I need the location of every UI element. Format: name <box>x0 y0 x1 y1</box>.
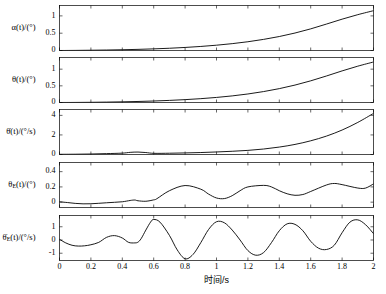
panel-theta-dot: 024θ̇(t)/(°/s) <box>6 110 373 159</box>
panel-theta-dot-frame <box>60 110 374 155</box>
panel-theta-dot-ytick-label-1: 2 <box>52 130 56 139</box>
panel-theta-e-dot-ytick-label-1: 0 <box>52 235 56 244</box>
panel-alpha-ytick-label-0: 0 <box>52 45 56 54</box>
xtick-label-5: 1 <box>215 262 219 271</box>
panel-theta-ylabel: θ(t)/(°) <box>12 74 36 84</box>
panel-theta-e-ytick-label-1: 0.2 <box>46 182 56 191</box>
xaxis-title: 时间/s <box>204 274 230 285</box>
panel-theta-e-ytick-label-0: 0 <box>52 197 56 206</box>
panel-theta-e-dot-ytick-label-0: -1 <box>49 248 56 257</box>
panel-alpha: 00.51α(t)/(°) <box>12 6 374 55</box>
panel-theta-dot-ylabel: θ̇(t)/(°/s) <box>6 126 35 136</box>
panel-alpha-ytick-label-1: 0.5 <box>46 28 56 37</box>
xtick-label-6: 1.2 <box>243 262 253 271</box>
xtick-label-7: 1.4 <box>274 262 284 271</box>
xtick-label-10: 2 <box>372 262 376 271</box>
panel-theta-ytick-label-2: 1 <box>52 64 56 73</box>
xtick-label-2: 0.4 <box>117 262 127 271</box>
panel-theta-e: 00.20.4θE(t)/(°) <box>8 163 373 208</box>
panel-theta-ytick-label-0: 0 <box>52 97 56 106</box>
xtick-label-1: 0.2 <box>86 262 96 271</box>
panel-theta-dot-ytick-label-2: 4 <box>52 110 56 119</box>
panel-theta-e-dot: -101θ̇E(t)/(°/s) <box>3 216 374 261</box>
xtick-label-9: 1.8 <box>337 262 347 271</box>
panel-theta-dot-ytick-label-0: 0 <box>52 149 56 158</box>
panel-theta-e-dot-ytick-label-2: 1 <box>52 222 56 231</box>
panel-alpha-frame <box>60 6 374 51</box>
panel-theta: 00.51θ(t)/(°) <box>12 58 374 107</box>
figure-canvas: 00.51α(t)/(°)00.51θ(t)/(°)024θ̇(t)/(°/s)… <box>0 0 386 294</box>
multi-panel-time-series-figure: 00.51α(t)/(°)00.51θ(t)/(°)024θ̇(t)/(°/s)… <box>0 0 386 294</box>
panel-theta-e-ylabel: θE(t)/(°) <box>8 179 35 189</box>
panel-theta-frame <box>60 58 374 103</box>
xtick-label-8: 1.6 <box>306 262 316 271</box>
panel-theta-e-dot-ylabel: θ̇E(t)/(°/s) <box>3 232 36 242</box>
panel-alpha-ytick-label-2: 1 <box>52 11 56 20</box>
xtick-label-0: 0 <box>58 262 62 271</box>
panel-theta-e-ytick-label-2: 0.4 <box>46 166 56 175</box>
xtick-label-3: 0.6 <box>149 262 159 271</box>
xtick-label-4: 0.8 <box>180 262 190 271</box>
panel-theta-ytick-label-1: 0.5 <box>46 81 56 90</box>
panel-alpha-ylabel: α(t)/(°) <box>12 22 36 32</box>
panel-theta-e-dot-frame <box>60 216 374 261</box>
